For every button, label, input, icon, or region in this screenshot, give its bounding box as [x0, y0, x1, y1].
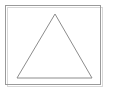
- canvas-background: [0, 0, 113, 94]
- figure-svg: Triangle in frame: [0, 0, 113, 94]
- figure-canvas: Triangle in frame: [0, 0, 113, 94]
